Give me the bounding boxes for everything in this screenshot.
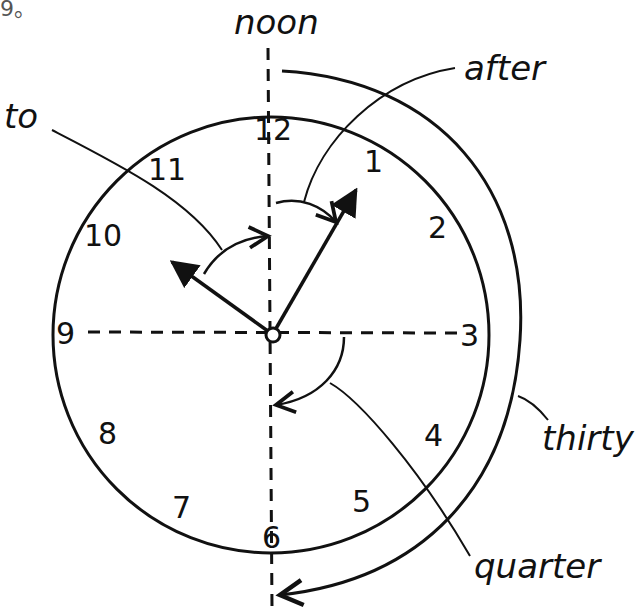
quarter-leader-line: [330, 383, 470, 556]
clock-number-10: 10: [84, 218, 122, 253]
after-arc-arrow: [276, 201, 336, 222]
label-noon: noon: [234, 2, 319, 42]
clock-number-9: 9: [56, 316, 75, 351]
clock-number-2: 2: [428, 210, 447, 245]
clock-number-8: 8: [98, 416, 117, 451]
hour-hand: [172, 262, 272, 334]
clock-number-7: 7: [172, 490, 191, 525]
label-quarter: quarter: [474, 546, 602, 586]
clock-number-11: 11: [148, 152, 186, 187]
minute-hand: [274, 190, 356, 332]
clock-number-12: 12: [254, 112, 292, 147]
label-to: to: [4, 96, 38, 136]
label-after: after: [464, 48, 547, 88]
thirty-arc-arrow: [280, 71, 521, 595]
corner-text: 9。: [0, 0, 36, 21]
clock-center-pivot: [266, 328, 280, 342]
clock-number-5: 5: [352, 484, 371, 519]
clock-number-1: 1: [364, 144, 383, 179]
thirty-leader-line: [518, 396, 548, 420]
clock-number-3: 3: [460, 318, 479, 353]
after-leader-line: [304, 68, 455, 202]
clock-number-4: 4: [424, 418, 443, 453]
quarter-arc-arrow: [276, 337, 344, 405]
label-thirty: thirty: [542, 418, 635, 458]
to-arc-arrow: [204, 236, 268, 274]
clock-number-6: 6: [262, 520, 281, 555]
clock-diagram: 9。 12 1 2 3 4 5 6 7 8 9 10 11 noon to af…: [0, 0, 643, 608]
